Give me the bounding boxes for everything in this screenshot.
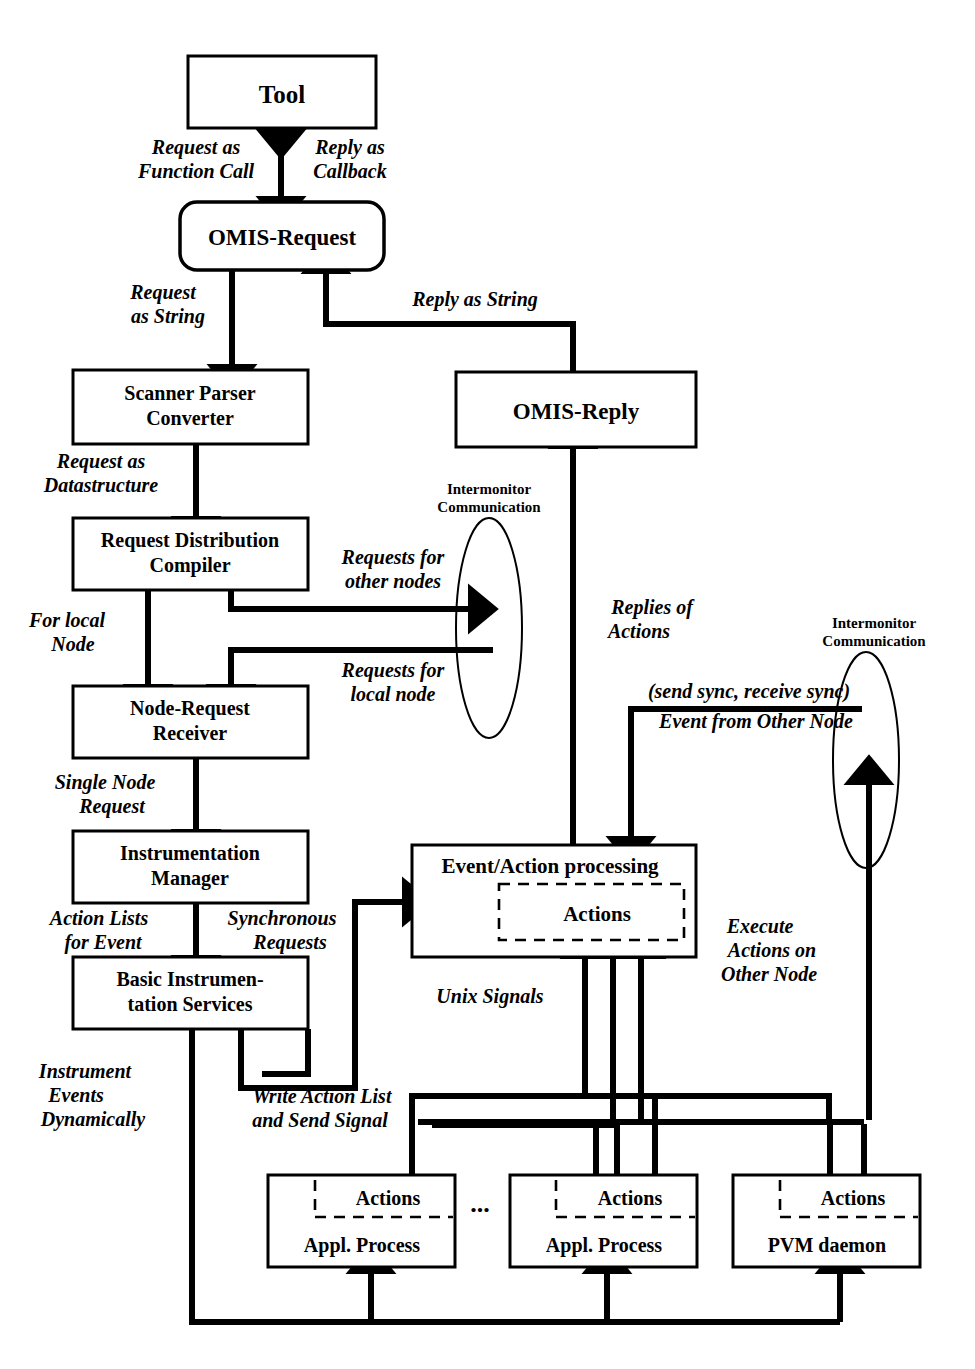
node-scanner-label-line1: Scanner Parser (124, 382, 255, 404)
svg-text:as String: as String (131, 305, 205, 328)
svg-text:Replies of: Replies of (610, 596, 695, 619)
svg-text:Events: Events (47, 1084, 104, 1106)
svg-text:Datastructure: Datastructure (43, 474, 159, 496)
node-nrr-label-line1: Node-Request (130, 697, 250, 720)
svg-text:other nodes: other nodes (345, 570, 441, 592)
edge-write-action-list-and-send-signal (262, 1029, 308, 1074)
svg-text:Request: Request (78, 795, 146, 818)
node-node-request-receiver[interactable]: Node-Request Receiver (73, 686, 308, 758)
label-execute-actions-on-other-node: Execute Actions on Other Node (721, 915, 817, 985)
edge-pvm-top (830, 1124, 864, 1175)
svg-text:Callback: Callback (313, 160, 386, 182)
node-scanner-parser-converter[interactable]: Scanner Parser Converter (73, 370, 308, 444)
node-tool-label: Tool (259, 81, 305, 108)
label-request-as-datastructure: Request as Datastructure (43, 450, 159, 496)
label-synchronous-requests: Synchronous Requests (228, 907, 337, 954)
node-event-action-processing[interactable]: Event/Action processing Actions (412, 845, 696, 957)
svg-text:Request: Request (129, 281, 197, 304)
svg-text:Request as: Request as (151, 136, 241, 159)
label-unix-signals: Unix Signals (436, 985, 543, 1008)
node-bis-label-line1: Basic Instrumen- (116, 968, 263, 990)
label-for-local-node: For local Node (28, 609, 106, 655)
svg-text:Requests for: Requests for (341, 659, 445, 682)
oval-intermonitor-right: Intermonitor Communication (822, 615, 926, 868)
svg-text:and Send Signal: and Send Signal (252, 1109, 388, 1132)
oval-left-label-line1: Intermonitor (447, 481, 531, 497)
label-request-as-string: Request as String (129, 281, 205, 328)
node-instrumentation-manager[interactable]: Instrumentation Manager (73, 831, 308, 903)
node-pvm-daemon[interactable]: Actions PVM daemon (733, 1175, 920, 1267)
node-proc1-inner-actions: Actions (356, 1187, 421, 1209)
node-pvm-inner-actions: Actions (821, 1187, 886, 1209)
svg-text:Request as: Request as (56, 450, 146, 473)
svg-text:Actions on: Actions on (726, 939, 816, 961)
node-pvm-label: PVM daemon (768, 1234, 886, 1256)
svg-text:Requests: Requests (252, 931, 327, 954)
edge-unix-signals-3 (641, 957, 829, 1175)
svg-text:Actions: Actions (606, 620, 670, 642)
svg-text:For local: For local (28, 609, 106, 631)
node-eap-title: Event/Action processing (441, 854, 659, 878)
node-request-distribution-compiler[interactable]: Request Distribution Compiler (73, 518, 308, 590)
label-event-from-other-node: Event from Other Node (658, 710, 853, 733)
label-action-lists-for-event: Action Lists for Event (48, 907, 149, 954)
node-basic-instrumentation-services[interactable]: Basic Instrumen- tation Services (73, 957, 308, 1029)
edge-requests-for-other-nodes (231, 590, 470, 609)
svg-text:for Event: for Event (64, 931, 143, 954)
diagram-canvas: Intermonitor Communication Intermonitor … (0, 0, 975, 1369)
svg-text:Write Action List: Write Action List (253, 1085, 393, 1107)
svg-text:Other Node: Other Node (721, 963, 817, 985)
label-replies-of-actions: Replies of Actions (606, 596, 695, 642)
node-omis-reply[interactable]: OMIS-Reply (456, 372, 696, 447)
svg-text:Synchronous: Synchronous (228, 907, 337, 930)
label-instrument-events-dynamically: Instrument Events Dynamically (38, 1060, 145, 1131)
node-scanner-label-line2: Converter (146, 407, 234, 429)
node-proc2-label: Appl. Process (546, 1234, 663, 1257)
label-write-action-list-and-send-signal: Write Action List and Send Signal (252, 1085, 393, 1132)
node-nrr-label-line2: Receiver (153, 722, 228, 744)
node-proc2-inner-actions: Actions (598, 1187, 663, 1209)
svg-text:Reply as String: Reply as String (411, 288, 538, 311)
node-rdc-label-line1: Request Distribution (101, 529, 279, 552)
label-reply-as-callback: Reply as Callback (313, 136, 386, 182)
node-eap-inner-actions: Actions (563, 902, 631, 926)
node-proc1-label: Appl. Process (304, 1234, 421, 1257)
edge-reply-as-string (326, 272, 573, 372)
svg-text:Requests for: Requests for (341, 546, 445, 569)
svg-text:Instrument: Instrument (38, 1060, 133, 1082)
label-reply-as-string: Reply as String (411, 288, 538, 311)
node-im-label-line1: Instrumentation (120, 842, 260, 864)
node-appl-process-1[interactable]: Actions Appl. Process (268, 1175, 455, 1267)
label-single-node-request: Single Node Request (55, 771, 156, 818)
node-rdc-label-line2: Compiler (149, 554, 230, 577)
node-bis-label-line2: tation Services (128, 993, 253, 1015)
node-omis-reply-label: OMIS-Reply (513, 399, 640, 424)
label-request-as-function-call: Request as Function Call (137, 136, 255, 182)
label-requests-for-local-node: Requests for local node (341, 659, 445, 705)
svg-text:Single Node: Single Node (55, 771, 156, 794)
svg-text:Reply as: Reply as (314, 136, 385, 159)
label-requests-for-other-nodes: Requests for other nodes (341, 546, 445, 592)
svg-text:Node: Node (50, 633, 94, 655)
node-tool[interactable]: Tool (188, 56, 376, 128)
svg-text:Dynamically: Dynamically (40, 1108, 146, 1131)
svg-text:Action Lists: Action Lists (48, 907, 149, 929)
svg-text:Function Call: Function Call (137, 160, 255, 182)
ellipsis-label: ... (470, 1189, 490, 1218)
node-omis-request-label: OMIS-Request (208, 225, 357, 250)
svg-text:Event from Other Node: Event from Other Node (658, 710, 853, 733)
node-im-label-line2: Manager (151, 867, 229, 890)
edge-bottom-bus-to-processes (371, 1272, 840, 1322)
svg-text:local node: local node (351, 683, 436, 705)
architecture-diagram: Intermonitor Communication Intermonitor … (0, 0, 975, 1369)
oval-left-label-line2: Communication (437, 499, 541, 515)
svg-text:Unix Signals: Unix Signals (436, 985, 543, 1008)
svg-text:(send sync, receive sync): (send sync, receive sync) (648, 680, 850, 703)
node-omis-request[interactable]: OMIS-Request (180, 202, 384, 270)
oval-right-label-line1: Intermonitor (832, 615, 916, 631)
node-appl-process-2[interactable]: Actions Appl. Process (510, 1175, 697, 1267)
svg-text:Execute: Execute (726, 915, 794, 937)
oval-right-label-line2: Communication (822, 633, 926, 649)
label-send-sync-receive-sync: (send sync, receive sync) (648, 680, 850, 703)
